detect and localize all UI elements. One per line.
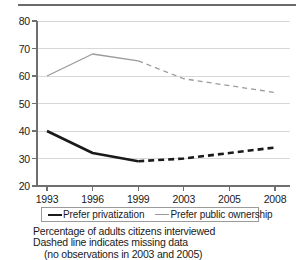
legend-item-prefer-privatization: Prefer privatization xyxy=(48,210,144,220)
x-axis-tick-label: 1996 xyxy=(72,194,114,205)
x-axis-tick-label: 1993 xyxy=(26,194,68,205)
caption-line-1: Percentage of adults citizens interviewe… xyxy=(0,226,302,237)
series-line-solid-1 xyxy=(47,54,138,76)
y-axis-tick-label: 60 xyxy=(8,71,30,82)
y-axis-tick-label: 50 xyxy=(8,99,30,110)
caption-line-2: Dashed line indicates missing data xyxy=(0,237,302,248)
series-line-solid-0 xyxy=(47,131,138,161)
y-axis-tick-label: 40 xyxy=(8,126,30,137)
y-axis-tick-label: 80 xyxy=(8,16,30,27)
chart-legend: Prefer privatization Prefer public owner… xyxy=(41,207,259,222)
series-line-dashed-0 xyxy=(138,148,275,162)
line-chart-svg xyxy=(0,12,302,194)
caption-line-3: (no observations in 2003 and 2005) xyxy=(0,249,302,260)
x-axis-tick-label: 2005 xyxy=(208,194,250,205)
legend-line-swatch-gray-icon xyxy=(155,214,169,215)
y-axis-tick-label: 20 xyxy=(8,181,30,192)
legend-item-prefer-public-ownership: Prefer public ownership xyxy=(155,210,272,220)
legend-label-prefer-public-ownership: Prefer public ownership xyxy=(170,210,272,220)
series-line-dashed-1 xyxy=(138,61,275,93)
y-axis-tick-label: 30 xyxy=(8,154,30,165)
chart-caption: Percentage of adults citizens interviewe… xyxy=(0,226,302,260)
x-axis-tick-label: 2003 xyxy=(163,194,205,205)
top-divider-rule xyxy=(18,4,296,6)
plot-area: 20304050607080 199319961999200320052008 xyxy=(0,12,302,194)
y-axis-tick-label: 70 xyxy=(8,44,30,55)
legend-line-swatch-black-icon xyxy=(48,214,62,216)
legend-label-prefer-privatization: Prefer privatization xyxy=(63,210,144,220)
x-axis-tick-label: 2008 xyxy=(254,194,296,205)
x-axis-tick-label: 1999 xyxy=(117,194,159,205)
